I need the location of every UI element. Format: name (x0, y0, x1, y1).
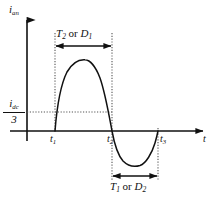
waveform-figure: ian idc 3 t1 t2 t3 t T2 or D1 T1 or D2 (0, 0, 217, 205)
axes-group (10, 20, 203, 141)
idc-level-label: idc 3 (2, 98, 26, 125)
y-axis-label: ian (9, 4, 19, 17)
top-span-label: T2 or D1 (56, 28, 92, 40)
tick-label-t3: t3 (160, 134, 166, 145)
tick-label-t2: t2 (107, 134, 113, 145)
idc-numerator: idc (2, 98, 26, 112)
reference-lines-group (27, 33, 158, 181)
waveform-curve-group (55, 60, 158, 166)
bottom-span-label: T1 or D2 (110, 181, 146, 193)
current-waveform (55, 60, 158, 166)
waveform-plot (0, 0, 217, 205)
tick-label-t1: t1 (50, 134, 56, 145)
idc-denominator: 3 (2, 113, 26, 125)
x-axis-label: t (203, 134, 206, 144)
